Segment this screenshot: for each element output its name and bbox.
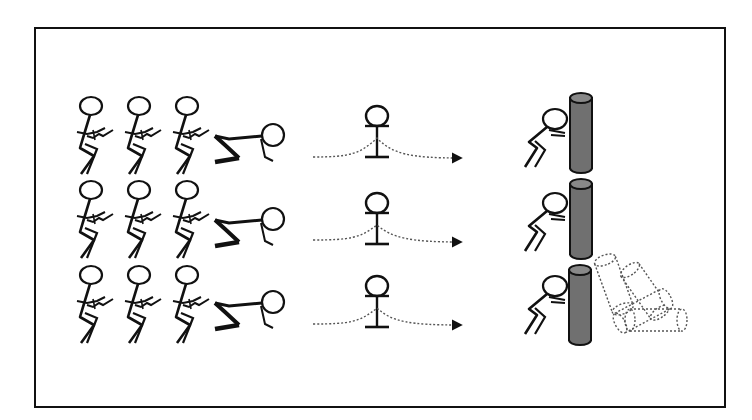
pusher-figure (525, 276, 567, 334)
runner-figure (125, 266, 161, 343)
cylinder-upright (570, 179, 592, 259)
obstacle-figure (365, 106, 389, 157)
runner-figure (125, 97, 161, 174)
cylinder-toppling (569, 265, 591, 345)
cylinder-upright (570, 93, 592, 173)
obstacle-figure (365, 193, 389, 244)
dotted-path-arrow (313, 138, 460, 158)
runner-figure (173, 97, 209, 174)
runner-figure (173, 266, 209, 343)
dotted-path-arrow (313, 225, 460, 242)
crouched-figure (215, 208, 284, 246)
pusher-figure (525, 109, 567, 167)
runner-figure (173, 181, 209, 258)
row-3 (77, 252, 687, 345)
runner-figure (125, 181, 161, 258)
runner-figure (77, 181, 113, 258)
crouched-figure (215, 291, 284, 329)
row-2 (77, 179, 592, 259)
dotted-path-arrow (313, 308, 460, 325)
pusher-figure (525, 193, 567, 251)
fallen-cylinder (593, 252, 635, 318)
obstacle-figure (365, 276, 389, 327)
runner-figure (77, 97, 113, 174)
row-1 (77, 93, 592, 174)
diagram-canvas (0, 0, 752, 420)
runner-figure (77, 266, 113, 343)
crouched-figure (215, 124, 284, 162)
